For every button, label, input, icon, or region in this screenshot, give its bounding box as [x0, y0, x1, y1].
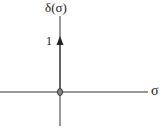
y-axis-label: δ(σ): [45, 1, 67, 14]
impulse-height-label: 1: [46, 35, 52, 47]
x-axis-label: σ: [151, 84, 159, 98]
diagram-canvas: [0, 0, 164, 128]
origin-marker: [58, 89, 63, 96]
delta-function-diagram: δ(σ) σ 1: [0, 0, 164, 128]
impulse-arrowhead-icon: [57, 36, 64, 45]
